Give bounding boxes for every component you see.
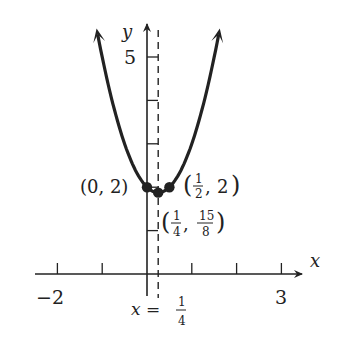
y-axis-label: y [121, 21, 133, 42]
x-tick-label-neg2: −2 [36, 286, 64, 308]
svg-text:15: 15 [199, 209, 214, 223]
y-tick-label-5: 5 [124, 46, 136, 68]
symmetry-axis-label: x = 1 4 [131, 295, 186, 328]
svg-text:2: 2 [195, 187, 203, 201]
data-point [164, 182, 174, 192]
svg-text:4: 4 [173, 225, 181, 239]
svg-text:): ) [231, 171, 240, 199]
point-label-half-2: ( 1 2 , 2 ) [183, 171, 240, 201]
parabola-graph: x y −2 3 5 (0, 2) ( 1 2 , 2 ) ( 1 4 , 15… [0, 0, 342, 349]
svg-text:2: 2 [217, 176, 228, 197]
data-point [153, 187, 163, 197]
svg-text:(: ( [183, 171, 192, 199]
point-label-vertex: ( 1 4 , 15 8 ) [161, 208, 225, 239]
svg-text:8: 8 [202, 225, 210, 239]
svg-text:,: , [183, 213, 189, 234]
x-axis-label: x [310, 250, 320, 271]
point-label-0-2: (0, 2) [80, 176, 128, 197]
data-point [142, 182, 152, 192]
x-tick-label-3: 3 [275, 286, 287, 308]
svg-text:x =: x = [131, 299, 160, 319]
svg-text:1: 1 [195, 172, 203, 186]
svg-text:1: 1 [178, 295, 186, 309]
svg-text:,: , [205, 176, 211, 197]
svg-text:4: 4 [178, 314, 186, 328]
svg-text:): ) [216, 208, 225, 236]
svg-text:(: ( [161, 208, 170, 236]
svg-text:1: 1 [173, 209, 181, 223]
